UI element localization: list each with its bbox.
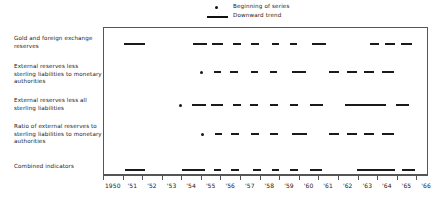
row-label-external-reserves-less-all-sterling-liabilities: External reserves less all sterling liab… [14, 97, 102, 112]
series-start-marker [201, 133, 204, 136]
row-label-ratio-of-external-reserves-to-sterling-liabilities-to-monetary-authorities: Ratio of external reserves to sterling l… [14, 123, 102, 146]
trend-segment [212, 43, 224, 45]
x-axis-tick [338, 175, 339, 180]
x-axis-tick [377, 175, 378, 180]
trend-segment [385, 43, 395, 45]
trend-segment [182, 169, 205, 171]
trend-segment [329, 133, 339, 135]
trend-segment [124, 43, 146, 45]
trend-segment [370, 43, 379, 45]
row-label-combined-indicators: Combined indicators [14, 163, 102, 171]
trend-segment [214, 71, 222, 73]
trend-segment [215, 133, 223, 135]
x-axis-tick-label: '56 [225, 182, 235, 189]
trend-segment [251, 71, 258, 73]
trend-segment [270, 71, 277, 73]
x-axis-tick [142, 175, 143, 180]
series-start-marker [179, 104, 182, 107]
x-axis-tick [416, 175, 417, 180]
trend-segment [312, 43, 327, 45]
x-axis-tick [260, 175, 261, 180]
trend-segment [193, 43, 207, 45]
trend-segment [290, 169, 298, 171]
trend-segment [251, 133, 259, 135]
x-axis-tick-label: '57 [245, 182, 255, 189]
x-axis-tick [358, 175, 359, 180]
trend-segment [290, 104, 298, 106]
x-axis-tick [103, 175, 104, 180]
x-axis-tick [318, 175, 319, 180]
trend-segment [270, 104, 278, 106]
x-axis-tick-label: '60 [304, 182, 314, 189]
trend-segment [253, 169, 261, 171]
category-labels: Gold and foreign exchange reserves Exter… [14, 27, 102, 175]
x-axis-tick [240, 175, 241, 180]
trend-segment [364, 133, 374, 135]
trend-segment [231, 169, 239, 171]
trend-segment [230, 71, 238, 73]
trend-segment [292, 133, 307, 135]
trend-segment [290, 43, 297, 45]
x-axis-tick-label: '54 [186, 182, 196, 189]
x-axis-tick [220, 175, 221, 180]
x-axis-tick-label: '62 [343, 182, 353, 189]
trend-segment [292, 71, 306, 73]
chart-legend: Beginning of series Downward trend [206, 3, 356, 23]
trend-segment [401, 43, 413, 45]
trend-segment [192, 104, 206, 106]
trend-segment [310, 169, 323, 171]
trend-segment [345, 104, 386, 106]
row-label-gold-and-foreign-exchange-reserves: Gold and foreign exchange reserves [14, 35, 102, 50]
x-axis-tick [123, 175, 124, 180]
x-axis-tick-label: '65 [402, 182, 412, 189]
trend-segment [382, 71, 394, 73]
trend-segment [272, 43, 279, 45]
trend-segment [125, 169, 146, 171]
x-axis-tick [299, 175, 300, 180]
series-start-marker [200, 71, 203, 74]
trend-segment [214, 169, 222, 171]
timeline-chart: Beginning of series Downward trend Gold … [0, 0, 442, 206]
trend-segment [233, 104, 241, 106]
plot-series-container [104, 28, 427, 174]
trend-segment [270, 133, 278, 135]
trend-segment [347, 133, 357, 135]
legend-label: Downward trend [233, 11, 281, 20]
trend-segment [231, 133, 239, 135]
x-axis-tick-label: '59 [284, 182, 294, 189]
x-axis: 1950'51'52'53'54'55'56'57'58'59'60'61'62… [103, 175, 428, 203]
x-axis-tick-label: '53 [167, 182, 177, 189]
x-axis-tick-label: '61 [323, 182, 333, 189]
x-axis-tick-label: '66 [421, 182, 431, 189]
trend-segment [272, 169, 279, 171]
x-axis-tick-label: '51 [128, 182, 138, 189]
x-axis-tick-label: '55 [206, 182, 216, 189]
x-axis-tick-label: '63 [363, 182, 373, 189]
trend-segment [211, 104, 224, 106]
x-axis-tick [201, 175, 202, 180]
x-axis-tick-label: '58 [265, 182, 275, 189]
trend-segment [347, 71, 357, 73]
x-axis-line [103, 175, 428, 176]
trend-segment [310, 104, 324, 106]
trend-segment [364, 71, 374, 73]
trend-segment [357, 169, 395, 171]
x-axis-tick-label: '52 [147, 182, 157, 189]
trend-segment [329, 71, 339, 73]
trend-segment [402, 169, 416, 171]
trend-segment [396, 104, 410, 106]
legend-label: Beginning of series [233, 2, 290, 11]
x-axis-tick [162, 175, 163, 180]
row-label-external-reserves-less-sterling-liabilities-to-monetary-authorities: External reserves less sterling liabilit… [14, 63, 102, 86]
x-axis-tick [181, 175, 182, 180]
trend-segment [382, 133, 394, 135]
trend-segment [251, 43, 259, 45]
trend-segment [233, 43, 241, 45]
x-axis-tick-label: '64 [382, 182, 392, 189]
line-marker-icon [206, 12, 230, 21]
trend-segment [250, 104, 258, 106]
x-axis-tick [279, 175, 280, 180]
x-axis-tick-label: 1950 [105, 182, 121, 189]
x-axis-tick [397, 175, 398, 180]
dot-marker-icon [206, 3, 230, 12]
